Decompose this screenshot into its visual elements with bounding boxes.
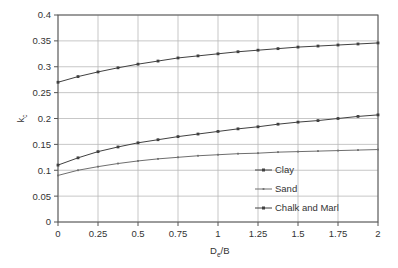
data-point-marker [57,81,60,84]
x-tick-label: 1.75 [329,228,348,239]
data-point-marker [377,113,380,116]
data-point-marker [57,175,59,177]
data-point-marker [277,123,280,126]
data-point-marker [177,156,179,158]
legend-marker [262,207,265,210]
data-point-marker [177,135,180,138]
data-point-marker [257,49,260,52]
y-tick-label: 0 [46,216,51,227]
data-point-marker [157,60,160,63]
chart-container: 00.050.10.150.20.250.30.350.400.250.50.7… [0,0,398,268]
data-point-marker [317,45,320,48]
x-tick-label: 0.5 [131,228,144,239]
data-point-marker [297,46,300,49]
data-point-marker [137,141,140,144]
data-point-marker [217,52,220,55]
x-axis-title-tail: /B [221,245,230,256]
data-point-marker [77,156,80,159]
data-point-marker [197,54,200,57]
x-tick-label: 1.25 [249,228,268,239]
y-tick-label: 0.25 [33,87,52,98]
data-point-marker [277,47,280,50]
data-point-marker [97,166,99,168]
data-point-marker [197,133,200,136]
data-point-marker [257,152,259,154]
x-tick-label: 1.5 [291,228,304,239]
data-point-marker [197,155,199,157]
data-point-marker [117,66,120,69]
data-point-marker [337,150,339,152]
x-tick-label: 2 [375,228,380,239]
y-tick-label: 0.4 [38,9,51,20]
legend-label-chalk-and-marl: Chalk and Marl [275,202,339,213]
data-point-marker [237,50,240,53]
x-tick-label: 0.75 [169,228,188,239]
data-point-marker [297,121,300,124]
legend-marker [263,188,265,190]
y-tick-label: 0.35 [33,35,52,46]
y-tick-label: 0.05 [33,191,52,202]
x-axis-title: De/B [210,245,229,258]
data-point-marker [337,117,340,120]
data-point-marker [337,44,340,47]
data-point-marker [237,153,239,155]
x-tick-label: 0 [55,228,60,239]
data-point-marker [97,71,100,74]
data-point-marker [137,160,139,162]
data-point-marker [357,149,359,151]
data-point-marker [177,57,180,60]
data-point-marker [317,119,320,122]
x-tick-label: 1 [215,228,220,239]
data-point-marker [377,149,379,151]
data-point-marker [57,164,60,167]
legend-label-sand: Sand [275,183,297,194]
data-point-marker [217,130,220,133]
data-point-marker [277,151,279,153]
data-point-marker [357,115,360,118]
y-tick-label: 0.15 [33,139,52,150]
data-point-marker [217,154,219,156]
legend-label-clay: Clay [275,164,294,175]
legend-marker [262,169,265,172]
data-point-marker [137,63,140,66]
data-point-marker [97,150,100,153]
y-tick-label: 0.3 [38,61,51,72]
data-point-marker [317,150,319,152]
data-point-marker [237,127,240,130]
data-point-marker [377,42,380,45]
y-tick-label: 0.1 [38,165,51,176]
data-point-marker [157,138,160,141]
line-chart: 00.050.10.150.20.250.30.350.400.250.50.7… [0,0,398,268]
data-point-marker [157,158,159,160]
data-point-marker [297,151,299,153]
x-tick-label: 0.25 [89,228,108,239]
data-point-marker [117,163,119,165]
data-point-marker [257,125,260,128]
y-tick-label: 0.2 [38,113,51,124]
data-point-marker [357,43,360,46]
data-point-marker [77,75,80,78]
data-point-marker [117,146,120,149]
data-point-marker [77,169,79,171]
